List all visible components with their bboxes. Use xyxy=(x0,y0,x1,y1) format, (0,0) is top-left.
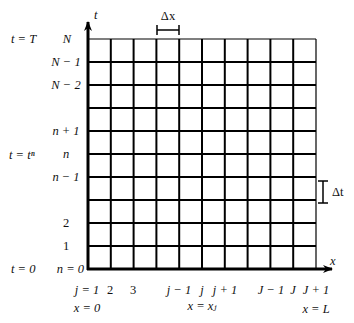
n-label-2: 2 xyxy=(63,217,69,230)
n-label-N-minus-2: N − 2 xyxy=(51,79,80,92)
time-label-0: t = 0 xyxy=(11,263,35,276)
j-label-j: j xyxy=(200,284,203,297)
grid-svg xyxy=(0,0,354,323)
j-label-3: 3 xyxy=(130,284,136,297)
j-label-1: j = 1 xyxy=(75,284,99,297)
x-label-0: x = 0 xyxy=(74,302,100,315)
n-label-zero: n = 0 xyxy=(57,263,84,276)
x-label-xj: x = xⱼ xyxy=(187,300,216,313)
x-label-L: x = L xyxy=(302,303,329,316)
delta-t-bracket xyxy=(318,181,328,203)
n-label-1: 1 xyxy=(63,240,69,253)
j-label-J: J xyxy=(290,284,296,297)
n-label-n-minus-1: n − 1 xyxy=(52,171,79,184)
j-label-J-plus-1: J + 1 xyxy=(303,284,329,297)
delta-t-label: Δt xyxy=(332,186,344,199)
grid-lines xyxy=(88,39,316,269)
n-label-N-minus-1: N − 1 xyxy=(51,56,80,69)
finite-difference-grid-diagram: t x Δx Δt t = T t = tⁿ t = 0 N N − 1 N −… xyxy=(0,0,354,323)
n-label-N: N xyxy=(63,33,71,46)
j-label-j-minus-1: j − 1 xyxy=(167,284,191,297)
j-label-j-plus-1: j + 1 xyxy=(213,284,237,297)
delta-x-label: Δx xyxy=(161,10,175,23)
time-label-tn: t = tⁿ xyxy=(9,149,35,162)
time-label-T: t = T xyxy=(11,33,36,46)
j-label-2: 2 xyxy=(107,284,113,297)
t-axis-label: t xyxy=(94,9,97,22)
n-label-n: n xyxy=(63,148,69,161)
n-label-n-plus-1: n + 1 xyxy=(52,125,79,138)
delta-x-bracket xyxy=(157,25,179,35)
j-label-J-minus-1: J − 1 xyxy=(258,284,284,297)
x-axis-label: x xyxy=(330,255,336,268)
